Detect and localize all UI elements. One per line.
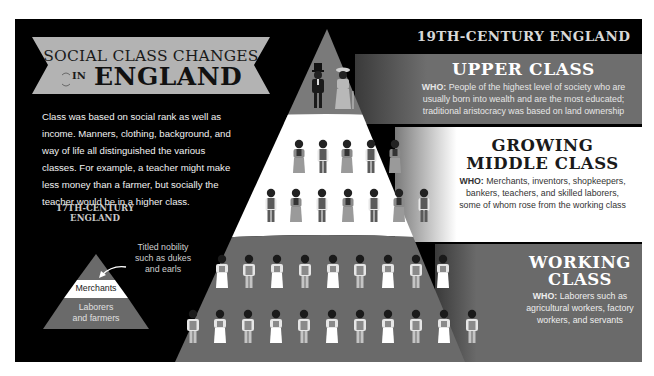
century19-header-text: 19TH-CENTURY ENGLAND: [405, 28, 642, 44]
upper-class-description: WHO: People of the highest level of soci…: [405, 81, 642, 118]
century19-header: 19TH-CENTURY ENGLAND: [405, 19, 642, 54]
working-class-title: WORKING CLASS: [525, 254, 635, 288]
infographic-card: SOCIAL CLASS CHANGES IN ENGLAND Class wa…: [15, 19, 642, 362]
upper-class-text: UPPER CLASS WHO: People of the highest l…: [405, 59, 642, 118]
working-class-text: WORKING CLASS WHO: Laborers such as agri…: [525, 254, 635, 327]
middle-class-text: GROWING MIDDLE CLASS WHO: Merchants, inv…: [455, 137, 630, 212]
working-class-description: WHO: Laborers such as agricultural worke…: [525, 290, 635, 327]
middle-class-title: GROWING MIDDLE CLASS: [455, 137, 630, 173]
pyramid-working-tier: [165, 235, 485, 362]
upper-class-title: UPPER CLASS: [405, 59, 642, 79]
middle-class-description: WHO: Merchants, inventors, shopkeepers, …: [455, 175, 630, 212]
